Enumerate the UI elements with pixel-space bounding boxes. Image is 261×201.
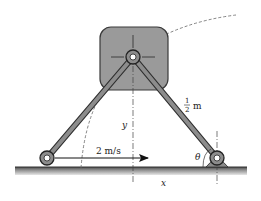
y-dimension-label: y xyxy=(121,120,128,130)
mechanism-diagram: 2 m/s θ y x 1 2 m xyxy=(0,0,261,201)
velocity-label: 2 m/s xyxy=(96,146,121,156)
ground xyxy=(15,167,247,175)
svg-text:2: 2 xyxy=(185,106,189,114)
svg-text:m: m xyxy=(193,101,202,111)
x-dimension-label: x xyxy=(161,178,166,188)
svg-text:1: 1 xyxy=(185,97,189,105)
right-link xyxy=(133,57,217,158)
link-length-label: 1 2 m xyxy=(184,97,202,114)
left-pin xyxy=(40,151,54,165)
top-pin xyxy=(126,50,140,64)
angle-theta-label: θ xyxy=(195,152,201,162)
left-link xyxy=(47,57,133,158)
right-pin xyxy=(210,151,224,165)
